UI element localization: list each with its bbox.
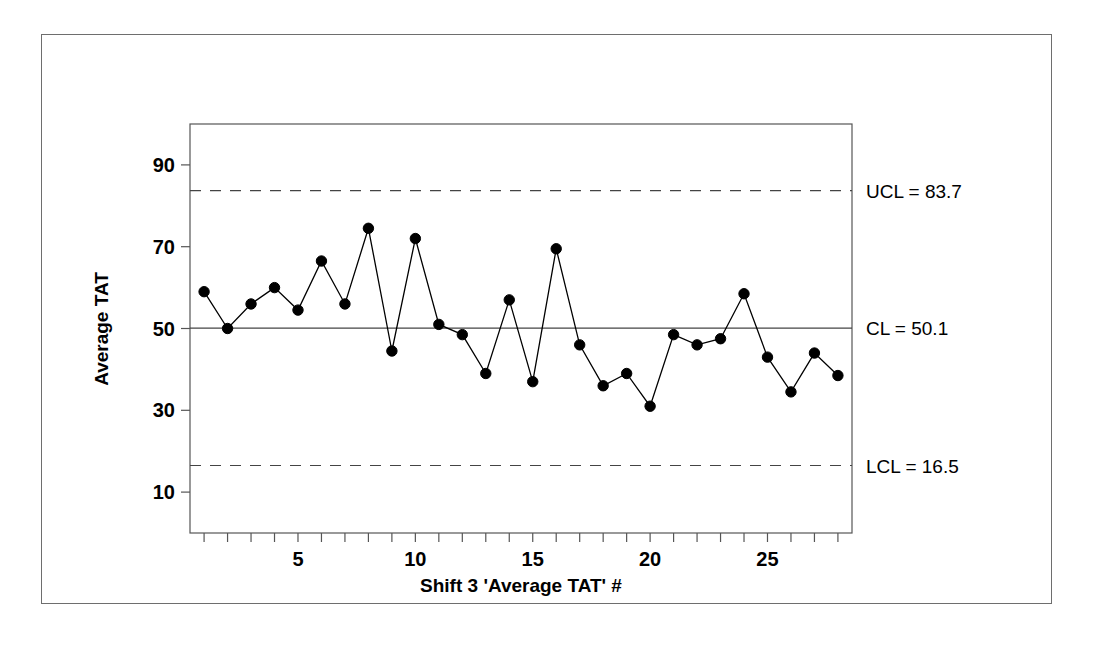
data-point [340, 299, 350, 309]
data-point [598, 381, 608, 391]
x-tick-label: 25 [756, 548, 778, 570]
data-series-markers [199, 223, 843, 411]
lcl-label: LCL = 16.5 [866, 456, 959, 477]
data-point [363, 223, 373, 233]
y-axis-ticks [181, 165, 190, 492]
data-point [457, 329, 467, 339]
data-point [434, 319, 444, 329]
data-point [809, 348, 819, 358]
data-point [668, 329, 678, 339]
x-tick-label: 5 [292, 548, 303, 570]
control-chart: 1030507090 510152025 UCL = 83.7CL = 50.1… [0, 0, 1094, 645]
data-point [387, 346, 397, 356]
x-tick-label: 15 [522, 548, 544, 570]
control-limit-labels: UCL = 83.7CL = 50.1LCL = 16.5 [866, 181, 962, 477]
cl-label: CL = 50.1 [866, 318, 948, 339]
data-point [528, 376, 538, 386]
data-point [293, 305, 303, 315]
ucl-label: UCL = 83.7 [866, 181, 962, 202]
data-point [692, 340, 702, 350]
chart-plot-area: 1030507090 510152025 UCL = 83.7CL = 50.1… [0, 0, 1094, 645]
data-point [269, 282, 279, 292]
data-point [833, 370, 843, 380]
y-tick-label: 70 [153, 236, 175, 258]
y-tick-label: 30 [153, 399, 175, 421]
x-tick-label: 20 [639, 548, 661, 570]
x-axis-tick-labels: 510152025 [292, 548, 778, 570]
x-axis-ticks [204, 533, 838, 542]
data-point [621, 368, 631, 378]
data-point [715, 334, 725, 344]
data-point [551, 244, 561, 254]
data-point [739, 289, 749, 299]
y-axis-tick-labels: 1030507090 [153, 154, 175, 503]
data-point [645, 401, 655, 411]
data-point [222, 323, 232, 333]
data-series-line [204, 228, 838, 406]
y-axis-title: Average TAT [91, 272, 112, 386]
series-polyline [204, 228, 838, 406]
y-tick-label: 10 [153, 481, 175, 503]
data-point [504, 295, 514, 305]
data-point [762, 352, 772, 362]
data-point [481, 368, 491, 378]
data-point [199, 286, 209, 296]
data-point [246, 299, 256, 309]
x-axis-title: Shift 3 'Average TAT' # [420, 575, 622, 596]
control-limit-lines [190, 191, 852, 466]
data-point [786, 387, 796, 397]
data-point [574, 340, 584, 350]
data-point [410, 233, 420, 243]
y-tick-label: 50 [153, 318, 175, 340]
x-tick-label: 10 [404, 548, 426, 570]
y-tick-label: 90 [153, 154, 175, 176]
data-point [316, 256, 326, 266]
